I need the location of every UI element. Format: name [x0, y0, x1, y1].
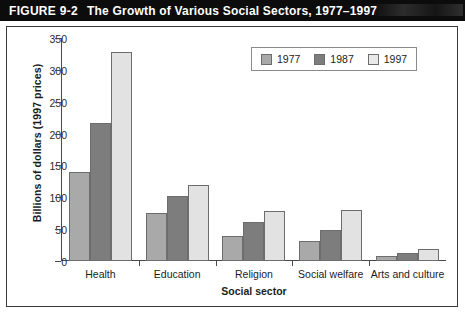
legend-swatch-icon — [314, 54, 325, 65]
bar-group — [216, 38, 293, 261]
y-tick-mark — [55, 102, 61, 103]
x-tick-label: Social welfare — [292, 268, 369, 280]
bar-group — [139, 38, 216, 261]
y-tick-mark — [55, 38, 61, 39]
bar-religion-1997 — [264, 211, 285, 261]
bar-group — [369, 38, 446, 261]
bar-arts-and-culture-1997 — [418, 249, 439, 261]
legend-swatch-icon — [368, 54, 379, 65]
y-tick-mark — [55, 134, 61, 135]
bar-health-1997 — [111, 52, 132, 261]
legend-label: 1997 — [384, 53, 407, 65]
bar-group-bars — [216, 38, 293, 261]
bar-group-bars — [139, 38, 216, 261]
legend-swatch-icon — [261, 54, 272, 65]
bar-health-1987 — [90, 123, 111, 261]
bar-group-bars — [292, 38, 369, 261]
figure-frame: Billions of dollars (1997 prices) 050100… — [6, 26, 458, 307]
bar-social-welfare-1987 — [320, 230, 341, 261]
bar-group — [292, 38, 369, 261]
figure-number: FIGURE 9-2 — [9, 4, 78, 18]
legend-item-1997[interactable]: 1997 — [368, 53, 407, 65]
bar-group-bars — [369, 38, 446, 261]
x-tick-label: Health — [62, 268, 139, 280]
legend-label: 1977 — [277, 53, 300, 65]
bar-education-1997 — [188, 185, 209, 261]
chart-legend: 197719871997 — [251, 47, 417, 71]
figure-title: The Growth of Various Social Sectors, 19… — [87, 4, 377, 18]
x-tick-mark — [292, 261, 293, 266]
bar-health-1977 — [69, 172, 90, 261]
bar-education-1977 — [146, 213, 167, 261]
figure-header-bar: FIGURE 9-2 The Growth of Various Social … — [0, 0, 465, 21]
bar-arts-and-culture-1977 — [376, 256, 397, 261]
bar-arts-and-culture-1987 — [397, 253, 418, 261]
legend-item-1987[interactable]: 1987 — [314, 53, 353, 65]
y-tick-mark — [55, 165, 61, 166]
bar-religion-1977 — [222, 236, 243, 261]
y-tick-mark — [55, 70, 61, 71]
bar-social-welfare-1977 — [299, 241, 320, 261]
x-tick-label: Arts and culture — [369, 268, 446, 280]
x-tick-mark — [139, 261, 140, 266]
plot-region — [62, 38, 446, 261]
x-tick-mark — [216, 261, 217, 266]
bar-group-bars — [62, 38, 139, 261]
legend-item-1977[interactable]: 1977 — [261, 53, 300, 65]
y-tick-mark — [55, 229, 61, 230]
bar-group — [62, 38, 139, 261]
bar-social-welfare-1997 — [341, 210, 362, 261]
x-axis-title: Social sector — [62, 285, 446, 297]
x-tick-label: Religion — [216, 268, 293, 280]
bar-education-1987 — [167, 196, 188, 261]
y-tick-mark — [55, 197, 61, 198]
legend-label: 1987 — [330, 53, 353, 65]
bar-chart: Billions of dollars (1997 prices) 050100… — [7, 27, 457, 306]
x-tick-label: Education — [139, 268, 216, 280]
bar-religion-1987 — [243, 222, 264, 262]
y-tick-mark — [55, 261, 61, 262]
x-tick-mark — [369, 261, 370, 266]
